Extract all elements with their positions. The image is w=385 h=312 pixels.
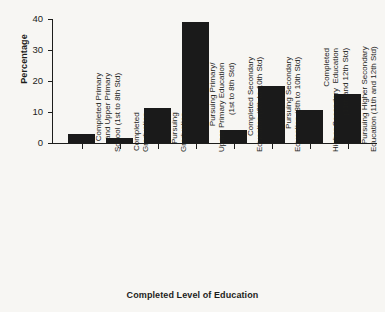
x-tick-mark (272, 144, 273, 149)
x-tick-label: Pursuing Secondary Education (8th to 10t… (284, 57, 303, 152)
x-tick-label: Completed Secondary Education (8th to 10… (246, 57, 265, 152)
x-tick-label: Completed Higher Secondary Education (11… (322, 48, 350, 152)
x-tick-label: Pursuing Graduation (170, 112, 189, 152)
bar-chart: Percentage 010203040 Completed Primary a… (0, 0, 385, 312)
x-tick-mark (310, 144, 311, 149)
x-tick-mark (120, 144, 121, 149)
x-tick-label: Pursuing Higher Secondary Education (11t… (360, 46, 379, 152)
y-tick-label: 10 (17, 106, 43, 117)
x-tick-label: Completed Graduation (132, 112, 151, 152)
bar (68, 134, 95, 143)
x-tick-label: Pursuing Primary/ Upper Primary Educatio… (208, 63, 236, 152)
x-tick-mark (82, 144, 83, 149)
x-tick-mark (348, 144, 349, 149)
x-tick-mark (196, 144, 197, 149)
y-tick-label: 30 (17, 44, 43, 55)
x-tick-mark (234, 144, 235, 149)
y-tick-label: 0 (17, 137, 43, 148)
y-tick-label: 40 (17, 13, 43, 24)
x-tick-mark (158, 144, 159, 149)
x-axis-title: Completed Level of Education (0, 290, 385, 300)
x-tick-label: Completed Primary and Upper Primary Scho… (94, 73, 122, 152)
y-tick-label: 20 (17, 75, 43, 86)
